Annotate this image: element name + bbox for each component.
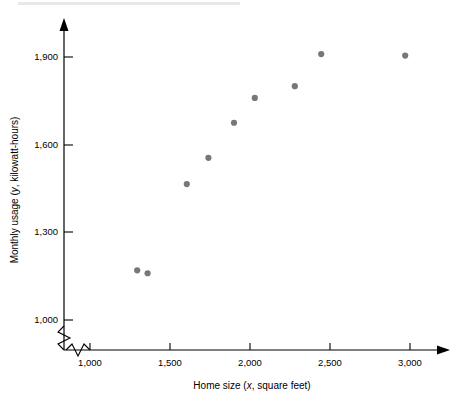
x-tick-label-2500: 2,500 — [318, 357, 342, 368]
y-axis-title: Monthly usage (y, kilowatt-hours) — [9, 117, 20, 264]
data-point — [231, 120, 237, 126]
y-axis — [60, 18, 69, 350]
plot-area: 1,000 1,300 1,600 1,900 1,000 1,500 2,00… — [0, 0, 462, 407]
x-tick-label-1000: 1,000 — [78, 357, 102, 368]
x-tick-label-3000: 3,000 — [398, 357, 422, 368]
data-point — [252, 95, 258, 101]
x-tick-label-1500: 1,500 — [158, 357, 182, 368]
x-axis-title-prefix: Home size ( — [193, 380, 247, 391]
data-point — [402, 52, 408, 58]
y-axis-title-suffix: , kilowatt-hours) — [9, 117, 20, 188]
data-point — [134, 267, 140, 273]
scatter-chart: 1,000 1,300 1,600 1,900 1,000 1,500 2,00… — [0, 0, 462, 407]
x-axis-title: Home size (x, square feet) — [193, 380, 310, 391]
x-tick-marks — [90, 343, 410, 350]
data-points-layer — [134, 51, 408, 276]
x-tick-labels: 1,000 1,500 2,000 2,500 3,000 — [78, 357, 422, 368]
x-tick-label-2000: 2,000 — [238, 357, 262, 368]
data-point — [318, 51, 324, 57]
data-point — [292, 83, 298, 89]
y-axis-arrow-icon — [60, 18, 69, 31]
y-tick-label-1600: 1,600 — [34, 139, 58, 150]
x-axis — [64, 346, 450, 355]
x-axis-title-suffix: , square feet) — [252, 380, 311, 391]
y-tick-label-1300: 1,300 — [34, 226, 58, 237]
y-tick-label-1000: 1,000 — [34, 314, 58, 325]
y-tick-labels: 1,000 1,300 1,600 1,900 — [34, 51, 58, 325]
data-point — [205, 155, 211, 161]
data-point — [184, 181, 190, 187]
data-point — [145, 270, 151, 276]
y-tick-marks — [64, 57, 73, 320]
y-axis-title-prefix: Monthly usage ( — [9, 192, 20, 264]
x-axis-arrow-icon — [437, 346, 450, 355]
y-tick-label-1900: 1,900 — [34, 51, 58, 62]
